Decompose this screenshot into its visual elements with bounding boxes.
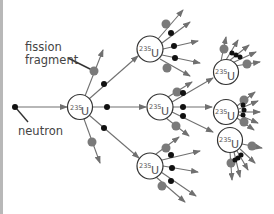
svg-text:235: 235 [139, 45, 151, 53]
nucleus-U2: 235 U [137, 36, 163, 62]
svg-text:235: 235 [149, 103, 161, 111]
svg-text:U: U [161, 105, 169, 118]
svg-text:U: U [231, 138, 239, 151]
svg-text:U: U [81, 105, 89, 118]
fission-fragment-label: fission fragment [25, 41, 78, 67]
svg-text:U: U [151, 47, 159, 60]
neutron-pointer [16, 108, 28, 122]
fission-label-line2: fragment [25, 54, 78, 67]
fission-chain-diagram: 235 U 235 U 235 U 235 U 235 U [0, 0, 274, 214]
incoming-neutron [12, 104, 18, 110]
svg-text:235: 235 [215, 108, 227, 116]
nucleus-U5: 235 U [214, 60, 239, 85]
svg-text:235: 235 [215, 68, 227, 76]
diagram-canvas: 235 U 235 U 235 U 235 U 235 U [0, 0, 274, 214]
svg-text:235: 235 [139, 162, 151, 170]
svg-text:U: U [151, 164, 159, 177]
nucleus-U1: 235 U [68, 95, 93, 120]
svg-text:235: 235 [219, 136, 231, 144]
svg-text:U: U [227, 110, 235, 123]
nucleus-U6: 235 U [214, 100, 239, 125]
nucleus-U4: 235 U [137, 153, 163, 179]
neutron-label: neutron [18, 125, 63, 138]
nucleus-U7: 235 U [218, 128, 243, 153]
nucleus-U3: 235 U [147, 94, 173, 120]
svg-text:U: U [227, 70, 235, 83]
